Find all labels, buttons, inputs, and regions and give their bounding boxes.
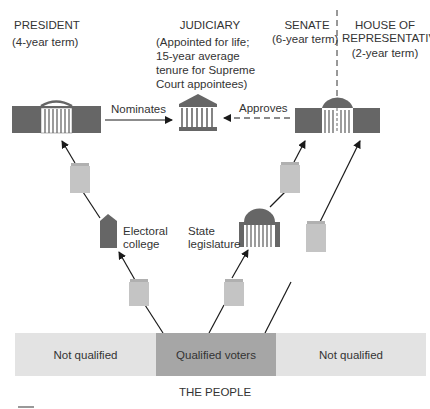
- state-legislature-label-1: State: [188, 224, 215, 238]
- white-house-icon: [12, 102, 101, 134]
- state-legislature-label-2: legislature: [188, 237, 240, 251]
- judiciary-label: JUDICIARY: [165, 18, 255, 32]
- house-label-line1: HOUSE OF: [342, 18, 428, 32]
- supreme-court-icon: [179, 94, 217, 131]
- judiciary-term: (Appointed for life; 15-year average ten…: [156, 35, 255, 91]
- not-qualified-left: Not qualified: [15, 333, 156, 376]
- electoral-college-icon: [100, 214, 117, 248]
- state-legislature-icon: [239, 209, 280, 247]
- president-term: (4-year term): [12, 35, 78, 49]
- senate-term: (6-year term): [272, 32, 338, 46]
- qualified-voters: Qualified voters: [156, 333, 276, 376]
- senate-label: SENATE: [282, 18, 332, 32]
- the-people-caption: THE PEOPLE: [160, 385, 270, 399]
- diagram: PRESIDENT (4-year term) JUDICIARY (Appoi…: [0, 0, 430, 409]
- capitol-icon: [295, 97, 380, 133]
- electoral-college-label-2: college: [123, 237, 159, 251]
- nominates-label: Nominates: [111, 102, 166, 116]
- president-label: PRESIDENT: [14, 18, 80, 32]
- electoral-college-label-1: Electoral: [123, 224, 168, 238]
- approves-label: Approves: [239, 101, 288, 115]
- not-qualified-right: Not qualified: [276, 333, 426, 376]
- house-term: (2-year term): [342, 46, 428, 60]
- house-label-line2: REPRESENTATIVES: [342, 31, 428, 45]
